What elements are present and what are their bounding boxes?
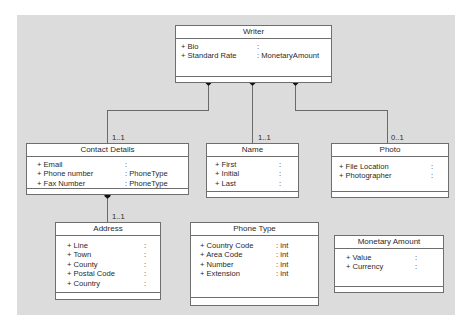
attribute-type: : int bbox=[276, 269, 288, 278]
class-writer[interactable]: Writer + Bio: + Standard Rate: MonetaryA… bbox=[175, 25, 332, 83]
attribute-row: + County: bbox=[56, 260, 160, 269]
attribute-row: + First: bbox=[207, 160, 298, 169]
attribute-row: + Phone number: PhoneType bbox=[27, 169, 188, 178]
class-monetary-amount[interactable]: Monetary Amount + Value: + Currency: bbox=[334, 235, 444, 293]
attribute-list: + Country Code: int + Area Code: int + N… bbox=[191, 236, 318, 279]
attribute-type: : bbox=[144, 269, 146, 278]
attribute-type: : bbox=[415, 262, 417, 271]
attribute-row: + Number: int bbox=[191, 260, 318, 269]
attribute-row: + Value: bbox=[335, 253, 443, 262]
attribute-type: : bbox=[144, 250, 146, 259]
attribute-row: + Email: bbox=[27, 160, 188, 169]
class-name: Monetary Amount bbox=[335, 236, 443, 249]
connector-writer-contact bbox=[208, 82, 209, 110]
attribute-name: + Currency bbox=[346, 262, 383, 271]
attribute-name: + Value bbox=[346, 253, 371, 262]
attribute-type: : bbox=[415, 253, 417, 262]
attribute-name: + Country Code bbox=[200, 241, 253, 250]
class-name: Phone Type bbox=[191, 223, 318, 236]
attribute-name: + Town bbox=[67, 250, 91, 259]
attribute-name: + Phone number bbox=[37, 169, 93, 178]
class-contact-details[interactable]: Contact Details + Email: + Phone number:… bbox=[26, 143, 189, 195]
attribute-type: : int bbox=[276, 250, 288, 259]
connector-writer-photo bbox=[295, 82, 296, 110]
attribute-type: : bbox=[144, 260, 146, 269]
attribute-name: + Photographer bbox=[339, 171, 392, 180]
attribute-list: + File Location: + Photographer: bbox=[332, 157, 448, 181]
operations-compartment bbox=[335, 286, 443, 292]
class-name: Address bbox=[56, 223, 160, 236]
attribute-type: : bbox=[144, 279, 146, 288]
attribute-row: + Bio: bbox=[176, 42, 331, 51]
multiplicity-label: 1..1 bbox=[112, 212, 125, 221]
attribute-type: : bbox=[431, 171, 433, 180]
class-name: Contact Details bbox=[27, 144, 188, 157]
attribute-name: + Initial bbox=[215, 169, 239, 178]
attribute-type: : int bbox=[276, 260, 288, 269]
attribute-name: + File Location bbox=[339, 162, 389, 171]
class-photo[interactable]: Photo + File Location: + Photographer: bbox=[331, 143, 449, 198]
connector-writer-photo bbox=[387, 110, 388, 143]
connector-writer-contact bbox=[107, 110, 108, 143]
class-address[interactable]: Address + Line: + Town: + County: + Post… bbox=[55, 222, 161, 300]
attribute-name: + Email bbox=[37, 160, 63, 169]
attribute-type: : bbox=[279, 169, 281, 178]
attribute-type: : bbox=[279, 160, 281, 169]
attribute-row: + Area Code: int bbox=[191, 250, 318, 259]
attribute-name: + Area Code bbox=[200, 250, 242, 259]
attribute-row: + Fax Number: PhoneType bbox=[27, 179, 188, 188]
attribute-row: + Town: bbox=[56, 250, 160, 259]
attribute-row: + Standard Rate: MonetaryAmount bbox=[176, 51, 331, 60]
attribute-name: + Line bbox=[67, 241, 88, 250]
class-name: Photo bbox=[332, 144, 448, 157]
operations-compartment bbox=[56, 292, 160, 299]
attribute-list: + Value: + Currency: bbox=[335, 249, 443, 272]
class-name: Name bbox=[207, 144, 298, 157]
attribute-row: + Postal Code: bbox=[56, 269, 160, 278]
attribute-type: : bbox=[257, 42, 259, 51]
attribute-name: + Extension bbox=[200, 269, 240, 278]
attribute-list: + Email: + Phone number: PhoneType + Fax… bbox=[27, 157, 188, 188]
attribute-row: + Country Code: int bbox=[191, 241, 318, 250]
attribute-name: + Standard Rate bbox=[181, 51, 237, 60]
multiplicity-label: 1..1 bbox=[112, 133, 125, 142]
operations-compartment bbox=[191, 297, 318, 305]
attribute-name: + Last bbox=[215, 179, 236, 188]
attribute-type: : bbox=[144, 241, 146, 250]
attribute-row: + Photographer: bbox=[332, 171, 448, 180]
attribute-name: + Country bbox=[67, 279, 100, 288]
attribute-name: + First bbox=[215, 160, 236, 169]
attribute-row: + Currency: bbox=[335, 262, 443, 271]
attribute-name: + Postal Code bbox=[67, 269, 115, 278]
multiplicity-label: 1..1 bbox=[258, 133, 271, 142]
attribute-name: + Number bbox=[200, 260, 234, 269]
attribute-type: : bbox=[431, 162, 433, 171]
attribute-type: : bbox=[125, 160, 127, 169]
attribute-type: : PhoneType bbox=[125, 169, 168, 178]
connector-writer-contact bbox=[107, 110, 209, 111]
attribute-list: + Bio: + Standard Rate: MonetaryAmount bbox=[176, 39, 331, 61]
attribute-name: + Fax Number bbox=[37, 179, 85, 188]
attribute-row: + Country: bbox=[56, 279, 160, 288]
attribute-row: + Initial: bbox=[207, 169, 298, 178]
attribute-type: : PhoneType bbox=[125, 179, 168, 188]
attribute-list: + First: + Initial: + Last: bbox=[207, 157, 298, 188]
attribute-type: : int bbox=[276, 241, 288, 250]
attribute-row: + Extension: int bbox=[191, 269, 318, 278]
attribute-name: + Bio bbox=[181, 42, 199, 51]
class-name: Writer bbox=[176, 26, 331, 39]
attribute-type: : MonetaryAmount bbox=[257, 51, 319, 60]
operations-compartment bbox=[176, 76, 331, 82]
operations-compartment bbox=[27, 188, 188, 194]
operations-compartment bbox=[207, 191, 298, 197]
connector-writer-name bbox=[252, 82, 253, 143]
attribute-row: + Line: bbox=[56, 241, 160, 250]
attribute-row: + File Location: bbox=[332, 162, 448, 171]
operations-compartment bbox=[332, 191, 448, 197]
class-name-entity[interactable]: Name + First: + Initial: + Last: bbox=[206, 143, 299, 198]
attribute-list: + Line: + Town: + County: + Postal Code:… bbox=[56, 236, 160, 288]
connector-writer-photo bbox=[295, 110, 388, 111]
class-phone-type[interactable]: Phone Type + Country Code: int + Area Co… bbox=[190, 222, 319, 306]
attribute-row: + Last: bbox=[207, 179, 298, 188]
multiplicity-label: 0..1 bbox=[391, 133, 404, 142]
